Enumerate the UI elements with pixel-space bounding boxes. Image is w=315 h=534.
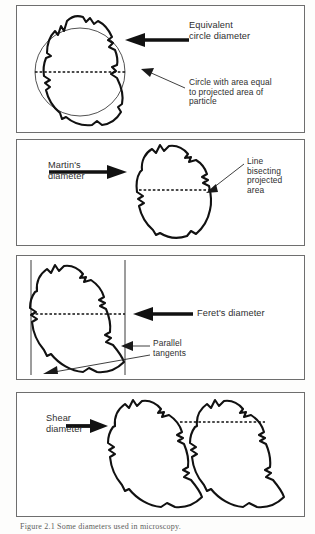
figure-page: Equivalent circle diameter Circle with a… xyxy=(0,0,315,534)
irregular-particle-outline xyxy=(44,16,123,125)
irregular-particle-outline-left xyxy=(108,400,202,507)
equivalent-circle-arrow-thick xyxy=(125,33,189,47)
irregular-particle-outline xyxy=(30,265,124,372)
shear-diameter-diagram xyxy=(17,393,304,516)
panel-1-graphic xyxy=(17,6,304,132)
panel-ferets-diameter: Feret's diameter Parallel tangents xyxy=(16,255,305,380)
panel-equivalent-circle-diameter: Equivalent circle diameter Circle with a… xyxy=(16,5,305,133)
shear-diameter-label: Shear diameter xyxy=(46,413,83,435)
irregular-particle-outline-right xyxy=(190,400,284,507)
figure-caption: Figure 2.1 Some diameters used in micros… xyxy=(20,522,300,532)
bisecting-note-arrow-thin xyxy=(206,164,244,193)
panel-martins-diameter: Martin's diameter Line bisecting project… xyxy=(16,139,305,246)
martins-diameter-label: Martin's diameter xyxy=(48,160,85,182)
equivalent-circle-diagram xyxy=(17,6,304,132)
parallel-tangents-label: Parallel tangents xyxy=(153,339,186,358)
irregular-particle-outline xyxy=(137,145,211,238)
ferets-diameter-label: Feret's diameter xyxy=(197,308,265,319)
panel-4-graphic xyxy=(17,393,304,516)
circle-area-note-label: Circle with area equal to projected area… xyxy=(189,78,272,107)
equivalent-circle-diameter-label: Equivalent circle diameter xyxy=(189,20,250,42)
circle-note-arrow-thin xyxy=(141,68,185,88)
panel-shear-diameter: Shear diameter xyxy=(16,392,305,517)
ferets-diameter-arrow-thick xyxy=(133,307,193,321)
bisecting-line-note-label: Line bisecting projected area xyxy=(247,157,282,195)
